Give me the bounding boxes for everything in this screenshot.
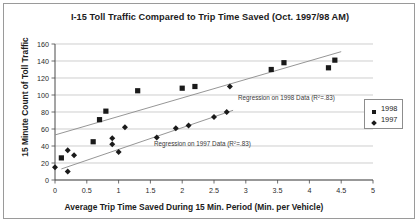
x-tick-labels: 00.511.522.533.544.55 bbox=[53, 186, 375, 195]
legend-label: 1997 bbox=[381, 115, 397, 124]
svg-text:3: 3 bbox=[244, 186, 248, 195]
svg-text:Regression on 1998 Data (R2=.8: Regression on 1998 Data (R2=.83) bbox=[238, 94, 335, 102]
svg-text:100: 100 bbox=[37, 91, 49, 100]
svg-text:1.5: 1.5 bbox=[145, 186, 155, 195]
svg-text:0: 0 bbox=[45, 176, 49, 185]
svg-text:120: 120 bbox=[37, 74, 49, 83]
trendlines bbox=[55, 52, 341, 169]
svg-text:0: 0 bbox=[53, 186, 57, 195]
data-points bbox=[52, 58, 337, 175]
svg-text:1: 1 bbox=[117, 186, 121, 195]
svg-text:5: 5 bbox=[371, 186, 375, 195]
svg-text:0.5: 0.5 bbox=[82, 186, 92, 195]
svg-text:3.5: 3.5 bbox=[273, 186, 283, 195]
svg-text:20: 20 bbox=[41, 159, 49, 168]
gridlines bbox=[55, 44, 373, 180]
svg-text:80: 80 bbox=[41, 108, 49, 117]
diamond-marker-icon bbox=[368, 111, 380, 129]
svg-text:2: 2 bbox=[180, 186, 184, 195]
svg-text:140: 140 bbox=[37, 57, 49, 66]
svg-text:Regression on 1997 Data (R2=.8: Regression on 1997 Data (R2=.83) bbox=[154, 140, 251, 148]
chart-legend: 1998 1997 bbox=[364, 99, 403, 129]
svg-text:2.5: 2.5 bbox=[209, 186, 219, 195]
svg-text:60: 60 bbox=[41, 125, 49, 134]
trendline-annotations: Regression on 1998 Data (R2=.83)Regressi… bbox=[154, 94, 335, 148]
y-tick-labels: 020406080100120140160 bbox=[37, 40, 49, 185]
axis-ticks bbox=[52, 44, 374, 184]
svg-text:160: 160 bbox=[37, 40, 49, 49]
svg-text:40: 40 bbox=[41, 142, 49, 151]
svg-text:4: 4 bbox=[307, 186, 311, 195]
chart-container: I-15 Toll Traffic Compared to Trip Time … bbox=[4, 4, 416, 220]
legend-label: 1998 bbox=[381, 104, 397, 113]
chart-frame: I-15 Toll Traffic Compared to Trip Time … bbox=[3, 3, 415, 219]
plot-area: 020406080100120140160 00.511.522.533.544… bbox=[4, 4, 416, 220]
legend-item-1997: 1997 bbox=[368, 114, 397, 125]
svg-text:4.5: 4.5 bbox=[336, 186, 346, 195]
